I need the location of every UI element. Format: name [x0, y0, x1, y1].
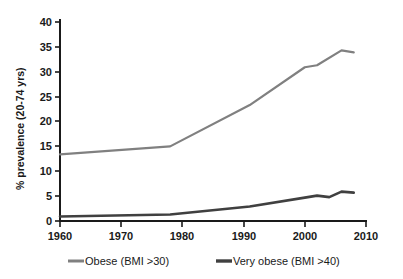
x-tick-label-1970: 1970	[109, 230, 133, 242]
legend-label-obese: Obese (BMI >30)	[85, 255, 169, 267]
y-tick-label-15: 15	[40, 140, 52, 152]
obesity-prevalence-line-chart: % prevalence (20-74 yrs) 40 35 30 25 20 …	[0, 0, 403, 279]
x-tick-label-1980: 1980	[170, 230, 194, 242]
legend-label-very-obese: Very obese (BMI >40)	[233, 255, 340, 267]
y-axis-label: % prevalence (20-74 yrs)	[14, 67, 26, 190]
y-tick-label-10: 10	[40, 165, 52, 177]
x-tick-label-2000: 2000	[293, 230, 317, 242]
y-tick-label-0: 0	[46, 215, 52, 227]
y-tick-label-5: 5	[46, 190, 52, 202]
chart-legend: Obese (BMI >30) Very obese (BMI >40)	[68, 255, 340, 267]
x-tick-label-2010: 2010	[354, 230, 378, 242]
y-tick-label-25: 25	[40, 91, 52, 103]
y-tick-label-20: 20	[40, 115, 52, 127]
x-tick-label-1990: 1990	[232, 230, 256, 242]
series-line-very-obese	[60, 192, 354, 217]
chart-canvas: % prevalence (20-74 yrs) 40 35 30 25 20 …	[0, 0, 403, 279]
y-tick-label-30: 30	[40, 66, 52, 78]
series-line-obese	[60, 50, 354, 154]
y-tick-label-40: 40	[40, 16, 52, 28]
x-tick-label-1960: 1960	[48, 230, 72, 242]
y-tick-label-35: 35	[40, 41, 52, 53]
